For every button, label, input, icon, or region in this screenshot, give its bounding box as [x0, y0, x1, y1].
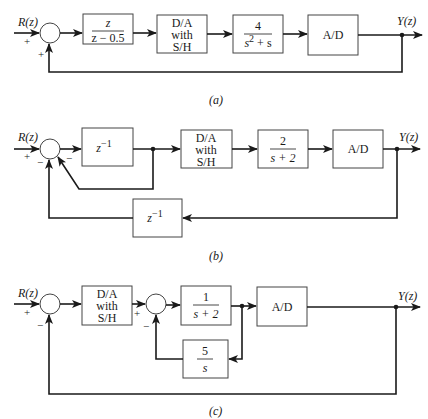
- summer-b-outer-sign: −: [37, 156, 43, 168]
- diagram-a: R(z) + + z z − 0.5 D/A with S/H 4 s2 + s…: [14, 14, 422, 107]
- integrator-den-c: s: [203, 361, 208, 375]
- dac-line3: S/H: [197, 155, 216, 169]
- summer1-c-feedback-sign: −: [37, 319, 43, 331]
- summer-a-feedback-sign: +: [38, 48, 44, 60]
- block-diagrams-canvas: R(z) + + z z − 0.5 D/A with S/H 4 s2 + s…: [0, 0, 428, 419]
- summer-b-inner-sign: −: [66, 152, 72, 164]
- plant-num-c: 1: [203, 290, 209, 304]
- adc-label-a: A/D: [323, 28, 344, 42]
- summer-b-input-sign: +: [24, 150, 30, 162]
- controller-den-a: z − 0.5: [91, 31, 124, 45]
- output-label-c: Y(z): [398, 289, 417, 303]
- summer2-c-input-sign: +: [134, 307, 140, 319]
- controller-num-a: z: [105, 16, 111, 30]
- plant-num-b: 2: [280, 134, 286, 148]
- integrator-num-c: 5: [202, 344, 208, 358]
- dac-line3: S/H: [173, 40, 192, 54]
- plant-den-a: s2 + s: [244, 33, 271, 50]
- summing-junction-c1: [40, 294, 60, 314]
- diagram-b: R(z) + − − z−1 D/A with S/H 2 s + 2 A/D …: [14, 128, 420, 263]
- caption-a: (a): [209, 93, 223, 107]
- caption-b: (b): [209, 249, 223, 263]
- dac-line3: S/H: [98, 311, 117, 325]
- summing-junction-a: [40, 23, 60, 43]
- input-label-a: R(z): [17, 15, 38, 29]
- input-label-c: R(z): [17, 286, 38, 300]
- output-label-b: Y(z): [399, 130, 418, 144]
- adc-label-c: A/D: [272, 300, 293, 314]
- diagram-c: R(z) + − D/A with S/H + − 1 s + 2 A/D Y(…: [14, 286, 420, 418]
- summer-a-input-sign: +: [24, 35, 30, 47]
- inner-feedback-path-c-left: [156, 315, 183, 359]
- output-label-a: Y(z): [397, 14, 416, 28]
- summer1-c-input-sign: +: [24, 306, 30, 318]
- plant-den-b: s + 2: [271, 151, 296, 165]
- input-label-b: R(z): [17, 130, 38, 144]
- adc-label-b: A/D: [348, 142, 369, 156]
- plant-num-a: 4: [255, 19, 261, 33]
- summing-junction-c2: [146, 294, 166, 314]
- plant-den-c: s + 2: [194, 307, 219, 321]
- caption-c: (c): [209, 404, 222, 418]
- summer2-c-feedback-sign: −: [143, 320, 149, 332]
